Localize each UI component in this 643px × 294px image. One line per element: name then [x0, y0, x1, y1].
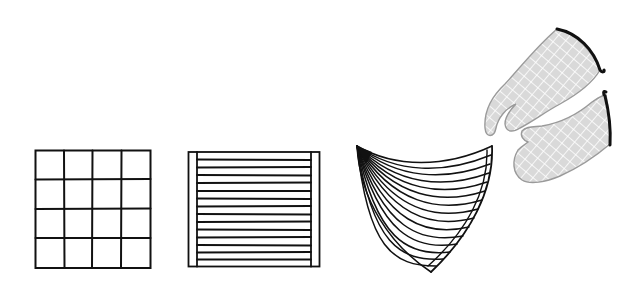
- fan-cloth: [357, 146, 492, 272]
- illustration-canvas: Grid potholder Striped potholder Fan-fol…: [0, 0, 643, 294]
- grid-potholder: [36, 151, 151, 269]
- illustration-scene: [0, 0, 643, 294]
- striped-potholder: [189, 152, 320, 267]
